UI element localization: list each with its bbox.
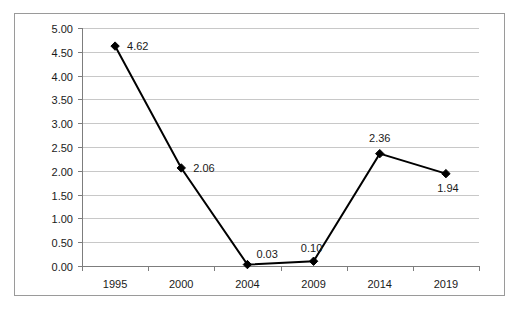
- x-axis-tick-label: 1995: [103, 278, 127, 290]
- y-axis-tick-label: 4.00: [52, 71, 73, 83]
- data-point-marker: [442, 169, 450, 177]
- y-axis-tick-label: 2.00: [52, 166, 73, 178]
- y-axis-tick-label: 1.50: [52, 190, 73, 202]
- y-axis-tick-label: 1.00: [52, 213, 73, 225]
- x-axis-tick-label: 2009: [301, 278, 325, 290]
- x-axis-tick-label: 2004: [235, 278, 259, 290]
- y-axis-tick-label: 0.50: [52, 237, 73, 249]
- series-line: [115, 46, 446, 264]
- x-axis-tick-label: 2019: [434, 278, 458, 290]
- y-axis-tick-label: 5.00: [52, 23, 73, 35]
- y-axis-tick-label: 4.50: [52, 47, 73, 59]
- data-point-label: 4.62: [127, 40, 148, 52]
- data-point-label: 1.94: [437, 182, 458, 194]
- data-point-label: 0.10: [301, 242, 322, 254]
- y-axis-tick-label: 2.50: [52, 142, 73, 154]
- line-chart: 5.004.504.003.503.002.502.001.501.000.50…: [15, 14, 504, 295]
- data-point-label: 2.06: [193, 162, 214, 174]
- y-axis-tick-label: 0.00: [52, 261, 73, 273]
- x-axis-tick-label: 2000: [169, 278, 193, 290]
- data-point-label: 2.36: [369, 132, 390, 144]
- y-axis-tick-label: 3.50: [52, 94, 73, 106]
- chart-frame: 5.004.504.003.503.002.502.001.501.000.50…: [14, 13, 505, 296]
- x-axis-tick-label: 2014: [368, 278, 392, 290]
- data-point-label: 0.03: [256, 248, 277, 260]
- data-point-marker: [111, 42, 119, 50]
- y-axis-tick-label: 3.00: [52, 118, 73, 130]
